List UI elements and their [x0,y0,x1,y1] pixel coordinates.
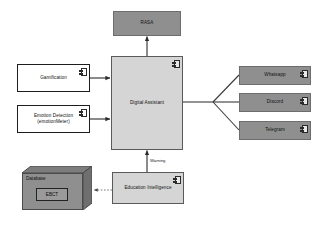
node-discord[interactable]: Discord [239,93,311,112]
node-digital-assistant-label: Digital Assistant [123,100,171,106]
node-database-label: Database [26,176,46,181]
node-digital-assistant[interactable]: Digital Assistant [111,56,183,150]
node-gamification[interactable]: Gamification [17,64,90,92]
node-whatsapp[interactable]: Whatsapp [239,66,311,85]
edge-junction-to-telegram [213,102,239,130]
component-icon [302,70,308,78]
node-emotion-detection-line2: (emotionMeter) [37,119,70,124]
node-emotion-detection-line1: Emotion Detection [34,113,73,118]
node-emotion-detection-label: Emotion Detection (emotionMeter) [27,113,80,125]
node-education-intelligence[interactable]: Education Intelligence [112,172,184,204]
node-rasa-label: RASA [134,20,161,26]
component-icon [81,68,87,76]
component-icon [175,176,181,184]
node-gamification-label: Gamification [33,75,74,81]
node-education-intelligence-label: Education Intelligence [117,185,178,191]
node-database-inner-artifact[interactable]: EBCT [36,188,68,201]
node-database-inner-label: EBCT [46,192,58,197]
node-discord-label: Discord [260,99,290,105]
edge-label-warning: Warning [150,158,165,163]
node-whatsapp-label: Whatsapp [257,72,292,78]
diagram-canvas: RASA Digital Assistant Gamification Emot… [0,0,324,225]
component-icon [302,125,308,133]
node-database[interactable]: Database EBCT [22,166,92,210]
node-telegram-label: Telegram [258,127,292,133]
component-icon [81,109,87,117]
node-telegram[interactable]: Telegram [239,121,311,140]
node-emotion-detection[interactable]: Emotion Detection (emotionMeter) [17,105,90,133]
edge-junction-to-whatsapp [213,75,239,102]
node-rasa[interactable]: RASA [113,11,181,36]
component-icon [174,60,180,68]
component-icon [302,97,308,105]
